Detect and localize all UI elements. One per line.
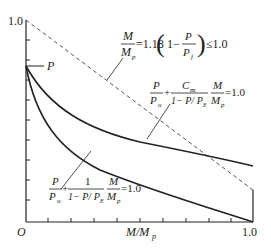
leader-upper	[147, 104, 170, 139]
svg-text:=1.0: =1.0	[121, 182, 141, 194]
p-point-label: P	[46, 59, 55, 73]
equation-lower: P P u + 1 1− P/ P E M M p =1.0	[48, 175, 141, 205]
svg-text:M/M: M/M	[125, 225, 150, 239]
svg-text:u: u	[158, 101, 162, 109]
svg-text:M: M	[108, 175, 119, 187]
interaction-diagram: 1.0 O 1.0 P M/M p M M p =1.18 ( 1− P P f…	[0, 0, 271, 252]
x-axis-label: M/M p	[125, 225, 156, 241]
svg-text:1−: 1−	[167, 37, 180, 51]
equation-dashed: M M p =1.18 ( 1− P P f ) ≤1.0	[120, 29, 228, 61]
svg-text:≤1.0: ≤1.0	[206, 37, 228, 51]
origin-label: O	[17, 225, 26, 239]
x-right-label: 1.0	[242, 225, 257, 239]
paren-right: )	[197, 29, 206, 58]
svg-text:E: E	[99, 198, 104, 204]
paren-left: (	[156, 29, 165, 58]
svg-text:1− P/ P: 1− P/ P	[68, 191, 100, 202]
svg-text:P: P	[182, 46, 190, 58]
svg-text:p: p	[220, 101, 225, 109]
svg-text:u: u	[57, 197, 61, 205]
svg-text:=1.0: =1.0	[225, 86, 245, 98]
svg-text:M: M	[212, 79, 223, 91]
svg-text:E: E	[202, 102, 207, 108]
svg-text:M: M	[210, 94, 221, 106]
svg-text:M: M	[120, 45, 132, 59]
svg-text:C: C	[182, 79, 190, 91]
svg-text:1− P/ P: 1− P/ P	[171, 95, 203, 106]
svg-text:P: P	[184, 30, 192, 42]
svg-text:f: f	[191, 53, 194, 61]
svg-text:1: 1	[85, 175, 91, 187]
svg-text:p: p	[116, 197, 121, 205]
equation-upper: P P u + C m 1− P/ P E M M p =1.0	[149, 79, 245, 109]
leader-dashed	[107, 58, 123, 80]
svg-text:P: P	[48, 190, 56, 202]
y-top-label: 1.0	[8, 14, 23, 28]
svg-text:+: +	[164, 86, 170, 98]
svg-text:P: P	[149, 94, 157, 106]
svg-text:P: P	[51, 175, 59, 187]
svg-text:M: M	[106, 190, 117, 202]
svg-text:p: p	[151, 232, 156, 241]
svg-text:p: p	[131, 53, 136, 61]
svg-text:M: M	[122, 29, 134, 43]
svg-text:P: P	[152, 79, 160, 91]
